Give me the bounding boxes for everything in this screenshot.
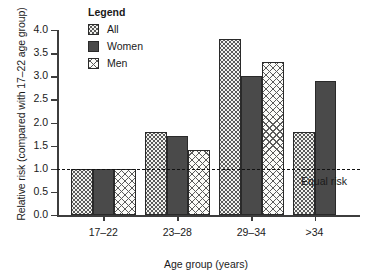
y-tick-label: 2.0	[33, 116, 48, 128]
bar-men-1722	[114, 169, 136, 215]
bar-all-2934	[219, 39, 241, 215]
y-tick-label: 3.5	[33, 46, 48, 58]
legend-swatch-all-icon	[88, 24, 99, 35]
y-tick: 2.0	[51, 123, 57, 124]
y-tick-label: 0.0	[33, 208, 48, 220]
legend-item-label: Women	[107, 40, 143, 52]
x-tick-label: 29–34	[237, 226, 266, 238]
y-tick: 3.0	[51, 76, 57, 77]
legend-title: Legend	[88, 6, 143, 18]
bar-men-2934	[262, 62, 284, 215]
y-tick-label: 2.5	[33, 92, 48, 104]
y-tick-label: 0.5	[33, 185, 48, 197]
legend-swatch-women-icon	[88, 41, 99, 52]
legend-item-all[interactable]: All	[88, 23, 143, 35]
bar-all-2328	[145, 132, 167, 215]
legend-items: AllWomenMen	[88, 23, 143, 69]
legend-item-label: Men	[107, 57, 127, 69]
x-tick	[103, 215, 104, 221]
y-tick-label: 3.0	[33, 69, 48, 81]
legend-swatch-men-icon	[88, 58, 99, 69]
y-tick: 0.0	[51, 215, 57, 216]
x-tick	[251, 215, 252, 221]
bar-all-1722	[71, 169, 93, 215]
y-tick: 3.5	[51, 53, 57, 54]
x-tick-label: 23–28	[163, 226, 192, 238]
y-tick-label: 1.5	[33, 139, 48, 151]
x-tick-label: 17–22	[89, 226, 118, 238]
y-tick: 4.0	[51, 30, 57, 31]
y-tick: 1.5	[51, 146, 57, 147]
bar-all-34	[293, 132, 315, 215]
bar-men-2328	[188, 150, 210, 215]
legend-item-women[interactable]: Women	[88, 40, 143, 52]
bar-women-1722	[93, 169, 115, 215]
y-axis-title: Relative risk (compared with 17–22 age g…	[15, 0, 27, 229]
x-tick	[315, 215, 316, 221]
relative-risk-bar-chart: Relative risk (compared with 17–22 age g…	[0, 0, 377, 280]
x-tick	[177, 215, 178, 221]
x-axis-title: Age group (years)	[56, 258, 356, 270]
equal-risk-label: Equal risk	[301, 175, 347, 187]
y-tick: 0.5	[51, 192, 57, 193]
bar-women-34	[315, 81, 337, 215]
y-axis-line	[57, 30, 59, 215]
legend-item-label: All	[107, 23, 119, 35]
x-tick-label: >34	[306, 226, 324, 238]
legend-item-men[interactable]: Men	[88, 57, 143, 69]
bar-women-2934	[241, 76, 263, 215]
y-tick-label: 1.0	[33, 162, 48, 174]
equal-risk-line	[57, 169, 360, 170]
y-tick: 2.5	[51, 99, 57, 100]
y-tick-label: 4.0	[33, 23, 48, 35]
legend: Legend AllWomenMen	[88, 6, 143, 74]
bar-women-2328	[167, 136, 189, 215]
